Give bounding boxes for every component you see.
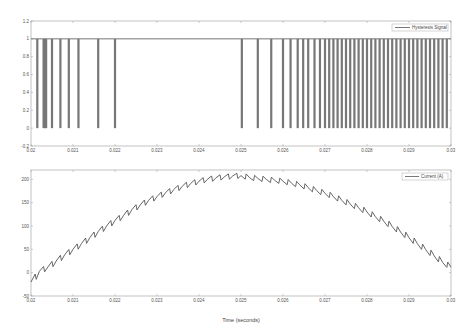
figure: -0.200.20.40.60.811.2 0.020.0210.0220.02… <box>0 0 472 336</box>
svg-text:0.024: 0.024 <box>193 298 205 303</box>
svg-text:1.2: 1.2 <box>23 19 30 24</box>
svg-text:1: 1 <box>26 36 29 41</box>
svg-text:0.6: 0.6 <box>23 72 30 77</box>
svg-text:0: 0 <box>26 270 29 275</box>
top-legend: Hysteresis Signal <box>392 24 448 31</box>
svg-text:0.025: 0.025 <box>235 298 247 303</box>
svg-text:0.02: 0.02 <box>27 148 36 153</box>
svg-text:0.023: 0.023 <box>151 148 163 153</box>
svg-text:0.029: 0.029 <box>403 298 415 303</box>
svg-text:0.03: 0.03 <box>447 298 456 303</box>
svg-text:0.021: 0.021 <box>67 148 79 153</box>
svg-text:0.021: 0.021 <box>67 298 79 303</box>
svg-text:200: 200 <box>21 177 29 182</box>
svg-text:0.029: 0.029 <box>403 148 415 153</box>
svg-text:0.8: 0.8 <box>23 54 30 59</box>
svg-text:150: 150 <box>21 200 29 205</box>
bottom-plot: -50050100150200 0.020.0210.0220.0230.024… <box>21 170 455 323</box>
svg-text:0.03: 0.03 <box>447 148 456 153</box>
svg-text:0.026: 0.026 <box>277 298 289 303</box>
svg-text:0: 0 <box>26 126 29 131</box>
svg-text:0.02: 0.02 <box>27 298 36 303</box>
svg-text:0.4: 0.4 <box>23 90 30 95</box>
top-legend-label: Hysteresis Signal <box>412 25 447 30</box>
svg-text:0.024: 0.024 <box>193 148 205 153</box>
bottom-legend: Current (A) <box>402 173 448 180</box>
svg-text:0.025: 0.025 <box>235 148 247 153</box>
svg-text:0.028: 0.028 <box>361 148 373 153</box>
svg-text:50: 50 <box>24 247 30 252</box>
top-plot: -0.200.20.40.60.811.2 0.020.0210.0220.02… <box>21 19 456 154</box>
svg-text:0.2: 0.2 <box>23 108 30 113</box>
bottom-legend-label: Current (A) <box>421 174 444 179</box>
svg-text:0.026: 0.026 <box>277 148 289 153</box>
svg-text:0.022: 0.022 <box>109 298 121 303</box>
svg-text:100: 100 <box>21 224 29 229</box>
svg-text:0.027: 0.027 <box>319 148 331 153</box>
svg-text:0.022: 0.022 <box>109 148 121 153</box>
x-axis-label: Time (seconds) <box>222 317 260 323</box>
svg-text:0.023: 0.023 <box>151 298 163 303</box>
svg-text:0.028: 0.028 <box>361 298 373 303</box>
svg-text:0.027: 0.027 <box>319 298 331 303</box>
